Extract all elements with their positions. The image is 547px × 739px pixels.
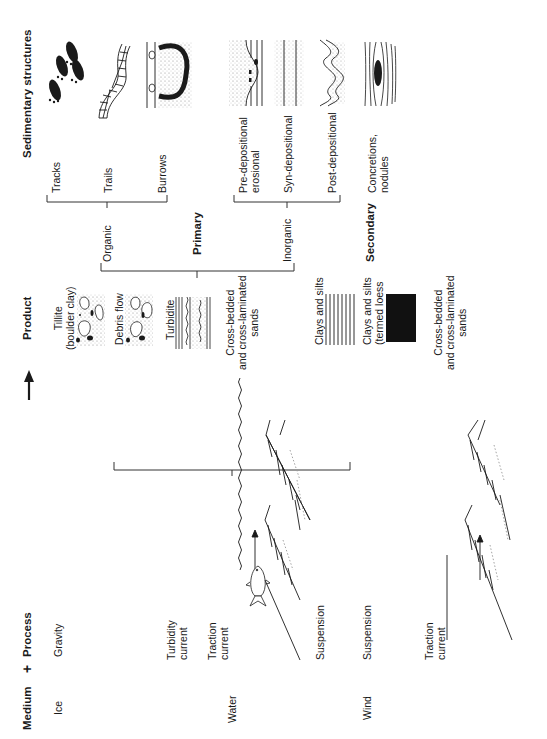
header-sedimentary-structures: Sedimentary structures bbox=[21, 30, 33, 158]
header-process: Process bbox=[21, 612, 33, 657]
process-turbidity-current: Turbidity current bbox=[165, 620, 189, 660]
process-traction-current-wind: Traction current bbox=[423, 622, 447, 660]
product-clays-silts: Clays and silts bbox=[313, 277, 325, 345]
product-tillite: Tillite (boulder clay) bbox=[52, 286, 76, 350]
concretion-icon bbox=[365, 42, 396, 106]
structure-burrows: Burrows bbox=[156, 154, 168, 193]
structure-syn-depositional: Syn-depositional bbox=[282, 115, 294, 193]
post-depositional-icon bbox=[320, 40, 345, 106]
product-clays-silts-loess: Clays and silts (termed loess bbox=[361, 277, 385, 345]
water-surface-wave bbox=[239, 378, 242, 570]
structure-post-depositional: Post-depositional bbox=[326, 112, 338, 193]
process-gravity: Gravity bbox=[52, 624, 64, 657]
medium-wind: Wind bbox=[361, 696, 373, 720]
structure-concretions: Concretions, nodules bbox=[366, 134, 390, 193]
process-traction-current-water: Traction current bbox=[206, 622, 230, 660]
medium-water: Water bbox=[226, 695, 238, 723]
category-inorganic: Inorganic bbox=[281, 219, 293, 262]
burrows-icon bbox=[147, 42, 192, 108]
cross-bedding-icon-wind bbox=[465, 420, 512, 640]
cross-bedding-dotted-wind bbox=[490, 445, 508, 580]
medium-ice: Ice bbox=[52, 701, 64, 715]
header-product: Product bbox=[21, 297, 33, 340]
product-cross-bedded-water: Cross-bedded and cross-laminated sands bbox=[224, 275, 260, 370]
debris-flow-icon bbox=[125, 294, 153, 346]
loess-block-icon bbox=[386, 294, 416, 342]
inorganic-items-bracket bbox=[234, 195, 340, 208]
clays-silts-laminae-icon bbox=[326, 294, 354, 345]
category-secondary: Secondary bbox=[364, 203, 376, 262]
pre-depositional-icon bbox=[229, 40, 262, 106]
water-bracket bbox=[114, 462, 350, 476]
syn-depositional-icon bbox=[274, 40, 304, 106]
category-organic: Organic bbox=[101, 225, 113, 262]
process-suspension-wind: Suspension bbox=[361, 605, 373, 660]
header-medium: Medium bbox=[21, 687, 33, 730]
structure-tracks: Tracks bbox=[50, 162, 62, 193]
product-debris-flow: Debris flow bbox=[113, 293, 125, 345]
trails-icon bbox=[99, 44, 130, 118]
turbidite-icon bbox=[176, 297, 210, 349]
product-cross-bedded-wind: Cross-bedded and cross-laminated sands bbox=[432, 275, 468, 370]
fish-icon bbox=[246, 566, 270, 606]
tracks-icon bbox=[47, 40, 87, 103]
cross-bedding-icon-water bbox=[265, 420, 310, 660]
header-plus: + bbox=[21, 665, 33, 673]
structure-trails: Trails bbox=[102, 168, 114, 193]
cross-bedding-dotted-water bbox=[283, 450, 305, 570]
tillite-icon bbox=[76, 294, 105, 346]
organic-items-bracket bbox=[47, 195, 167, 208]
primary-bracket bbox=[101, 263, 294, 278]
process-suspension-water: Suspension bbox=[314, 605, 326, 660]
structure-pre-depositional: Pre-depositional erosional bbox=[237, 117, 261, 193]
arrow-icon bbox=[24, 370, 34, 400]
category-primary: Primary bbox=[191, 212, 203, 255]
product-turbidite: Turbidite bbox=[164, 300, 176, 340]
